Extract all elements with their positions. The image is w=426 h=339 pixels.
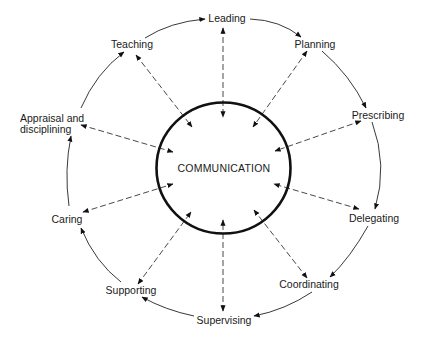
node-caring: Caring bbox=[52, 213, 83, 225]
arrow-supporting-to-caring bbox=[81, 228, 121, 282]
communication-cycle-diagram: COMMUNICATION Leading Planning Prescribi… bbox=[0, 0, 426, 339]
arrow-supervising-to-supporting bbox=[142, 297, 194, 316]
node-supporting: Supporting bbox=[106, 284, 157, 296]
arrow-appraisal-to-teaching bbox=[81, 52, 124, 108]
arrow-teaching-to-leading bbox=[145, 19, 205, 38]
node-planning: Planning bbox=[295, 38, 336, 50]
node-delegating: Delegating bbox=[349, 212, 399, 224]
arrow-coordinating-to-supervising bbox=[254, 292, 312, 316]
node-teaching: Teaching bbox=[111, 38, 153, 50]
node-coordinating: Coordinating bbox=[279, 278, 339, 290]
arrow-delegating-to-coordinating bbox=[330, 226, 368, 277]
arrow-planning-to-prescribing bbox=[322, 51, 366, 108]
node-appraisal-line2: disciplining bbox=[20, 123, 72, 135]
node-supervising: Supervising bbox=[197, 314, 252, 326]
node-appraisal: Appraisal and disciplining bbox=[20, 112, 87, 135]
arrow-leading-to-planning bbox=[250, 19, 301, 37]
arrow-prescribing-to-delegating bbox=[372, 122, 381, 209]
communication-hub-label: COMMUNICATION bbox=[178, 162, 271, 174]
node-prescribing: Prescribing bbox=[352, 109, 405, 121]
node-leading: Leading bbox=[208, 12, 246, 24]
hub-arrow-planning bbox=[253, 51, 307, 127]
hub-arrow-supporting bbox=[138, 212, 191, 284]
arrow-caring-to-appraisal bbox=[67, 136, 71, 206]
